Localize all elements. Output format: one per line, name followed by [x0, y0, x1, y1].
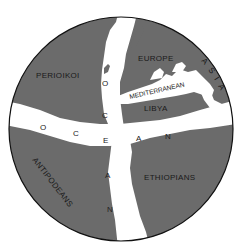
ocean-vertical-letter-o: O	[102, 79, 108, 88]
ocean-horizontal-letter-a: A	[136, 134, 142, 143]
world-map: PERIOIKOI EUROPE LIBYA ETHIOPIANS ANTIPO…	[0, 0, 236, 249]
ocean-horizontal-letter-c: C	[73, 129, 79, 138]
label-ethiopians: ETHIOPIANS	[144, 173, 195, 182]
ocean-vertical-letter-n: N	[107, 205, 113, 214]
globe-diagram: PERIOIKOI EUROPE LIBYA ETHIOPIANS ANTIPO…	[0, 0, 236, 249]
ocean-vertical-letter-a: A	[105, 171, 111, 180]
label-perioikoi: PERIOIKOI	[36, 71, 80, 80]
ocean-horizontal-letter-o: O	[40, 123, 46, 132]
ocean-vertical-letter-e: E	[103, 136, 108, 145]
label-europe: EUROPE	[138, 54, 174, 63]
label-libya: LIBYA	[144, 104, 168, 113]
ocean-horizontal-letter-n: N	[165, 132, 171, 141]
ocean-vertical-letter-c: C	[102, 111, 108, 120]
